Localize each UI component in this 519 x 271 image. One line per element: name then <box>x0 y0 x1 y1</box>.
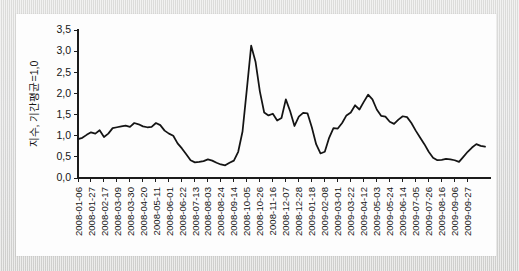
x-tick-label: 2008-02-17 <box>99 187 110 236</box>
x-tick-label: 2009-09-06 <box>449 187 460 236</box>
y-tick-label: 3,0 <box>56 44 71 56</box>
x-tick-label: 2009-05-24 <box>384 186 395 236</box>
chart-card: 0,00,51,01,52,02,53,03,5 2008-01-062008-… <box>16 14 496 256</box>
x-tick-label: 2008-10-26 <box>254 187 265 236</box>
x-tick-label: 2008-09-14 <box>228 186 239 236</box>
x-tick-label: 2008-06-01 <box>164 187 175 236</box>
y-tick-label: 0,5 <box>56 150 71 162</box>
x-tick-label: 2008-07-13 <box>190 187 201 236</box>
x-tick-label: 2008-05-11 <box>151 187 162 235</box>
x-tick-label: 2008-03-09 <box>112 187 123 236</box>
y-tick-label: 1,5 <box>56 108 71 120</box>
x-tick-label: 2009-03-22 <box>345 187 356 236</box>
x-tick-label: 2009-02-08 <box>319 187 330 236</box>
y-axis-title: 지수, 기간평균=1,0 <box>28 60 40 147</box>
y-tick-label: 3,5 <box>56 23 71 35</box>
x-axis: 2008-01-062008-01-272008-02-172008-03-09… <box>73 178 491 236</box>
y-tick-label: 2,0 <box>56 87 71 99</box>
x-tick-label: 2009-04-12 <box>358 187 369 236</box>
x-tick-label: 2009-06-14 <box>397 186 408 236</box>
x-tick-label: 2009-05-03 <box>371 187 382 236</box>
x-tick-label: 2008-01-06 <box>73 187 84 236</box>
x-tick-label: 2008-12-07 <box>280 187 291 236</box>
x-tick-label: 2008-04-20 <box>138 187 149 236</box>
y-axis-title-text: 지수, 기간평균=1,0 <box>28 60 40 147</box>
y-tick-label: 0,0 <box>56 171 71 183</box>
line-chart: 0,00,51,01,52,02,53,03,5 2008-01-062008-… <box>16 14 496 256</box>
y-tick-label: 2,5 <box>56 66 71 78</box>
x-tick-label: 2009-07-05 <box>410 187 421 236</box>
x-tick-label: 2008-03-30 <box>125 187 136 236</box>
x-tick-label: 2008-11-16 <box>267 187 278 235</box>
x-tick-label: 2008-08-03 <box>202 187 213 236</box>
x-tick-label: 2009-09-27 <box>462 187 473 236</box>
x-tick-label: 2008-12-28 <box>293 187 304 236</box>
data-series <box>78 46 485 166</box>
x-tick-label: 2008-06-22 <box>177 187 188 236</box>
x-tick-label: 2008-10-05 <box>241 187 252 236</box>
x-tick-label: 2008-08-24 <box>215 186 226 236</box>
x-tick-label: 2009-08-16 <box>436 187 447 236</box>
x-tick-label: 2008-01-27 <box>86 187 97 236</box>
y-tick-label: 1,0 <box>56 129 71 141</box>
x-tick-label: 2009-03-01 <box>332 187 343 236</box>
y-axis: 0,00,51,01,52,02,53,03,5 <box>56 23 78 183</box>
series-line-index <box>78 46 485 166</box>
x-tick-label: 2009-01-18 <box>306 187 317 236</box>
x-tick-label: 2009-07-26 <box>423 187 434 236</box>
